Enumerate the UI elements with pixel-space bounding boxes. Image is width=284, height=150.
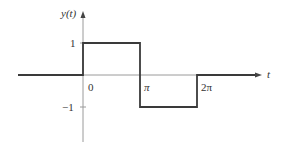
- x-axis-label: t: [267, 69, 270, 80]
- y-axis-arrow-icon: [81, 11, 86, 18]
- y-axis-label: y(t): [61, 8, 76, 19]
- y-tick-label-1: 1: [70, 38, 76, 49]
- x-tick-label-pi: π: [144, 82, 150, 93]
- x-tick-label-2pi: 2π: [201, 82, 212, 93]
- x-axis-arrow-icon: [255, 73, 262, 78]
- plot-canvas: [0, 0, 284, 150]
- chart-root: y(t) t 1 −1 0 π 2π: [0, 0, 284, 150]
- y-tick-label-minus-1: −1: [62, 102, 74, 113]
- x-tick-label-0: 0: [88, 82, 94, 93]
